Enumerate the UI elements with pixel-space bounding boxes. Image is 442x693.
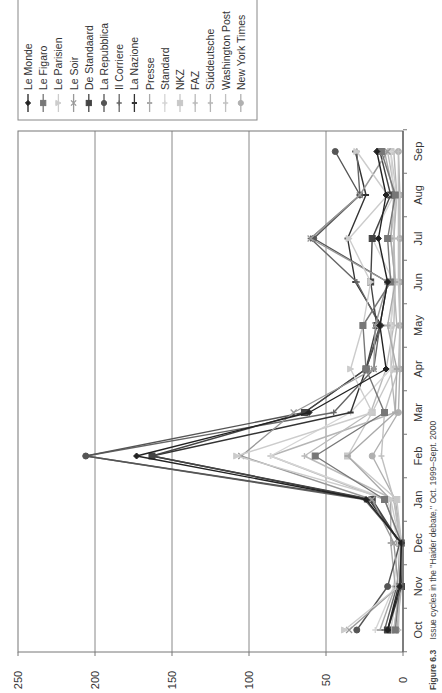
gridlines	[95, 131, 326, 652]
month-label: Nov	[412, 576, 424, 596]
month-label: Mar	[412, 403, 424, 422]
legend-label: New York Times	[235, 15, 247, 90]
legend-label: La Repubblica	[98, 23, 110, 90]
month-label: Jan	[412, 491, 424, 509]
value-tick-label: 0	[397, 677, 409, 683]
data-point	[177, 100, 182, 105]
data-point	[83, 453, 89, 459]
data-point	[375, 236, 381, 242]
value-tick-label: 200	[89, 671, 101, 689]
caption-label: Figure 6.3	[428, 650, 438, 690]
data-point	[101, 100, 106, 105]
data-point	[369, 236, 375, 242]
value-axis: 050100150200250	[12, 652, 409, 689]
data-point	[332, 149, 338, 155]
month-label: Sep	[412, 142, 424, 162]
series-il-corriere	[83, 149, 405, 634]
legend-label: NKZ	[174, 68, 186, 90]
legend-label: Presse	[144, 57, 156, 90]
month-label: Apr	[412, 360, 424, 377]
legend-label: Standard	[159, 47, 171, 90]
data-point	[360, 323, 366, 329]
month-label: Jun	[412, 273, 424, 291]
data-point	[385, 584, 391, 590]
legend-label: Washington Post	[220, 11, 232, 90]
legend-label: Le Soir	[68, 56, 80, 90]
series-le-soir	[238, 149, 401, 634]
legend-label: FAZ	[189, 70, 201, 90]
series-faz	[301, 149, 402, 634]
value-tick-label: 50	[320, 674, 332, 686]
chart: Le MondeLe FigaroLe ParisienLe SoirDe St…	[0, 0, 442, 693]
legend-label: La Nazione	[128, 37, 140, 90]
data-point	[382, 410, 388, 416]
legend-label: Le Figaro	[37, 45, 49, 90]
caption-text: Issue cycles in the "Haider debate," Oct…	[428, 421, 438, 640]
month-label: Dec	[412, 533, 424, 553]
data-point	[238, 100, 243, 105]
legend-label: Le Monde	[22, 43, 34, 90]
data-point	[86, 100, 91, 105]
data-point	[378, 453, 384, 459]
data-point	[312, 453, 318, 459]
series-line	[348, 152, 397, 631]
month-axis: OctNovDecJanFebMarAprMayJunJulAugSep	[403, 130, 424, 652]
data-point	[385, 236, 391, 242]
data-point	[134, 453, 140, 459]
data-point	[363, 366, 369, 372]
month-label: Aug	[412, 185, 424, 205]
data-point	[268, 453, 274, 459]
series-de-standaard	[149, 149, 404, 634]
data-point	[392, 627, 398, 633]
legend-label: Süddeutsche	[204, 29, 216, 90]
series-layer	[83, 149, 405, 634]
data-point	[41, 100, 46, 105]
value-tick-label: 250	[12, 671, 24, 689]
figure-caption: Figure 6.3 Issue cycles in the "Haider d…	[428, 421, 438, 690]
series-le-parisien	[234, 149, 403, 634]
data-point	[354, 627, 360, 633]
legend-label: Le Parisien	[52, 37, 64, 90]
data-point	[392, 192, 398, 198]
data-point	[382, 497, 388, 503]
series-la-nazione	[149, 152, 403, 631]
series-line	[304, 152, 400, 631]
legend-label: De Standaard	[83, 25, 95, 90]
data-point	[369, 453, 375, 459]
month-label: Feb	[412, 447, 424, 466]
legend-label: Il Corriere	[113, 44, 125, 90]
series-line	[152, 152, 402, 631]
value-tick-label: 150	[166, 671, 178, 689]
month-label: Jul	[412, 231, 424, 245]
value-tick-label: 100	[243, 671, 255, 689]
month-label: May	[412, 315, 424, 336]
month-label: Oct	[412, 621, 424, 638]
